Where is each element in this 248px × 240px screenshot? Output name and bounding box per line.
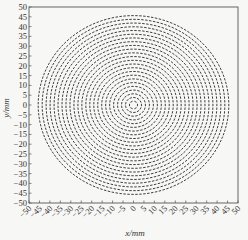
field-dash — [164, 96, 165, 98]
field-dash — [76, 58, 78, 60]
field-dash — [93, 186, 95, 187]
field-dash — [159, 150, 161, 151]
field-dash — [181, 154, 183, 156]
field-dash — [113, 56, 115, 57]
field-dash — [210, 85, 211, 87]
field-dash — [95, 95, 96, 97]
field-dash — [184, 69, 185, 71]
field-dash — [107, 71, 109, 72]
field-dash — [102, 61, 104, 62]
field-dash — [107, 138, 109, 139]
field-dash — [59, 140, 60, 142]
field-dash — [187, 177, 189, 178]
field-dash — [101, 82, 103, 84]
field-dash — [125, 106, 126, 108]
field-dash — [91, 144, 93, 146]
field-dash — [180, 35, 182, 36]
field-dash — [54, 129, 55, 131]
y-tick-label: 40 — [19, 22, 28, 32]
field-dash — [197, 133, 198, 135]
field-dash — [185, 174, 187, 175]
field-dash — [118, 143, 120, 144]
field-dash — [65, 73, 66, 75]
field-dash — [209, 136, 210, 138]
field-dash — [178, 39, 180, 40]
field-dash — [192, 39, 194, 41]
field-dash — [218, 85, 219, 87]
field-dash — [71, 117, 72, 119]
field-dash — [105, 68, 107, 69]
field-dash — [182, 142, 184, 144]
field-dash — [158, 175, 160, 176]
field-dash — [164, 156, 166, 157]
field-dash — [170, 187, 172, 188]
field-dash — [167, 93, 168, 95]
y-tick-label: −45 — [14, 188, 27, 198]
field-dash — [181, 148, 183, 150]
field-dash — [83, 56, 85, 58]
field-dash — [97, 42, 99, 43]
field-dash — [212, 78, 213, 80]
field-dash — [187, 142, 189, 144]
field-dash — [151, 111, 152, 113]
field-dash — [150, 32, 152, 33]
field-dash — [141, 92, 143, 93]
field-dash — [191, 59, 193, 61]
field-dash — [156, 180, 158, 181]
field-dash — [166, 21, 168, 22]
field-dash — [167, 115, 168, 117]
field-dash — [163, 80, 165, 82]
field-dash — [122, 99, 123, 101]
field-dash — [177, 122, 178, 124]
field-dash — [112, 121, 114, 123]
field-dash — [158, 183, 160, 184]
field-dash — [60, 121, 61, 123]
x-tick-label: 50 — [229, 203, 242, 216]
field-dash — [184, 126, 185, 128]
field-dash — [96, 179, 98, 180]
field-dash — [184, 166, 186, 167]
field-dash — [141, 137, 143, 138]
field-dash — [200, 52, 202, 54]
field-dash — [205, 126, 206, 128]
field-dash — [88, 129, 89, 131]
field-dash — [69, 43, 71, 45]
field-dash — [112, 64, 114, 65]
field-dash — [164, 71, 166, 73]
field-dash — [178, 52, 180, 53]
field-dash — [79, 93, 80, 95]
field-dash — [171, 62, 173, 64]
field-dash — [71, 144, 72, 146]
field-dash — [78, 74, 79, 76]
field-dash — [153, 127, 155, 128]
field-dash — [168, 128, 169, 130]
field-dash — [80, 129, 81, 131]
field-dash — [150, 150, 152, 151]
field-dash — [203, 129, 204, 131]
field-dash — [168, 59, 170, 60]
field-dash — [125, 96, 127, 98]
field-dash — [208, 78, 209, 80]
field-dash — [163, 20, 165, 21]
field-dash — [44, 135, 45, 137]
field-dash — [180, 132, 181, 134]
field-dash — [87, 113, 88, 115]
field-dash — [103, 174, 105, 175]
field-dash — [160, 166, 162, 167]
field-dash — [145, 86, 147, 87]
field-dash — [100, 37, 102, 38]
field-dash — [172, 141, 174, 143]
field-dash — [91, 138, 93, 140]
field-dash — [173, 59, 175, 61]
field-dash — [172, 86, 173, 88]
field-dash — [50, 148, 51, 150]
field-dash — [102, 24, 104, 25]
field-dash — [138, 83, 140, 84]
field-dash — [194, 139, 195, 141]
field-dash — [184, 43, 186, 44]
field-dash — [147, 111, 148, 113]
field-dash — [154, 65, 156, 66]
field-dash — [151, 97, 152, 99]
field-dash — [99, 29, 101, 30]
field-dash — [63, 68, 64, 70]
